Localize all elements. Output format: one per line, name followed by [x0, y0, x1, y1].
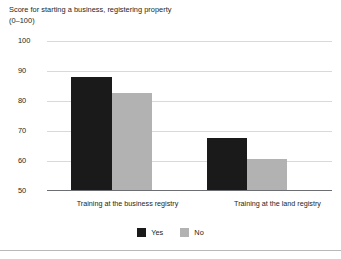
gridline-100	[47, 41, 332, 42]
bar-business-registry-yes	[71, 77, 112, 190]
chart-subtitle: (0–100)	[9, 16, 329, 27]
y-tick-50: 50	[18, 187, 26, 195]
bar-business-registry-no	[112, 93, 152, 190]
bottom-divider	[0, 250, 341, 251]
category-label-land-registry: Training at the land registry	[160, 199, 341, 208]
y-tick-60: 60	[18, 157, 26, 165]
legend-item-no[interactable]: No	[180, 228, 203, 237]
x-axis-baseline	[47, 190, 332, 191]
y-tick-70: 70	[18, 127, 26, 135]
bar-chart: Score for starting a business, registeri…	[0, 0, 341, 259]
legend-swatch-no-icon	[180, 228, 189, 237]
chart-legend: Yes No	[0, 228, 341, 237]
bar-land-registry-yes	[207, 138, 247, 190]
legend-label-yes: Yes	[151, 228, 163, 237]
legend-swatch-yes-icon	[137, 228, 146, 237]
chart-title-block: Score for starting a business, registeri…	[9, 5, 329, 26]
plot-area	[47, 41, 332, 191]
legend-item-yes[interactable]: Yes	[137, 228, 163, 237]
y-tick-80: 80	[18, 97, 26, 105]
bar-land-registry-no	[247, 159, 287, 190]
legend-label-no: No	[194, 228, 203, 237]
y-axis-tick-labels: 100 90 80 70 60 50	[0, 41, 47, 191]
y-tick-100: 100	[18, 37, 30, 45]
gridline-90	[47, 71, 332, 72]
chart-title: Score for starting a business, registeri…	[9, 5, 329, 16]
y-tick-90: 90	[18, 67, 26, 75]
